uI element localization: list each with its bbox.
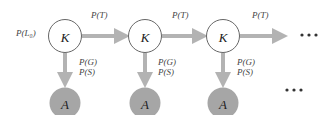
knowledge-node-1-label: K — [61, 31, 70, 44]
initial-probability-label: P(L₀) — [16, 29, 36, 38]
ellipsis-bottom — [285, 88, 302, 91]
emission-slip-label-3: P(S) — [237, 68, 253, 77]
emission-slip-label-1: P(S) — [79, 68, 95, 77]
transition-label-1: P(T) — [91, 11, 108, 20]
answer-node-3-label: A — [219, 98, 227, 111]
emission-guess-label-3: P(G) — [237, 58, 255, 67]
emission-guess-label-2: P(G) — [158, 58, 176, 67]
knowledge-node-2-label: K — [141, 31, 150, 44]
transition-label-3: P(T) — [252, 11, 269, 20]
answer-node-2-label: A — [141, 98, 149, 111]
ellipsis-top — [300, 33, 317, 36]
emission-slip-label-2: P(S) — [158, 68, 174, 77]
knowledge-node-3-label: K — [219, 31, 228, 44]
transition-label-2: P(T) — [172, 11, 189, 20]
emission-guess-label-1: P(G) — [79, 58, 97, 67]
answer-node-1-label: A — [61, 98, 69, 111]
